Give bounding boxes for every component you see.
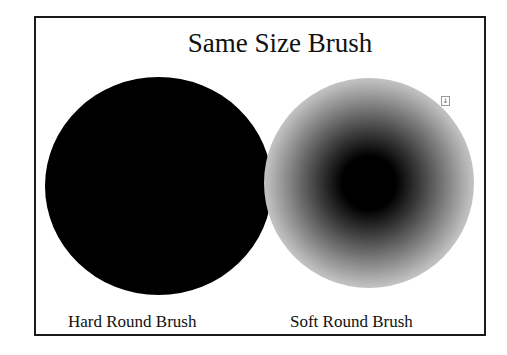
- hard-round-brush-label: Hard Round Brush: [68, 312, 196, 332]
- soft-round-brush-sample: [264, 78, 474, 288]
- figure-frame: Same Size Brush ↓ Hard Round Brush Soft …: [34, 16, 486, 336]
- soft-round-brush-label: Soft Round Brush: [290, 312, 413, 332]
- hard-round-brush-sample: [45, 77, 272, 295]
- text-cursor-icon: ↓: [441, 96, 450, 106]
- figure-title: Same Size Brush: [36, 28, 484, 59]
